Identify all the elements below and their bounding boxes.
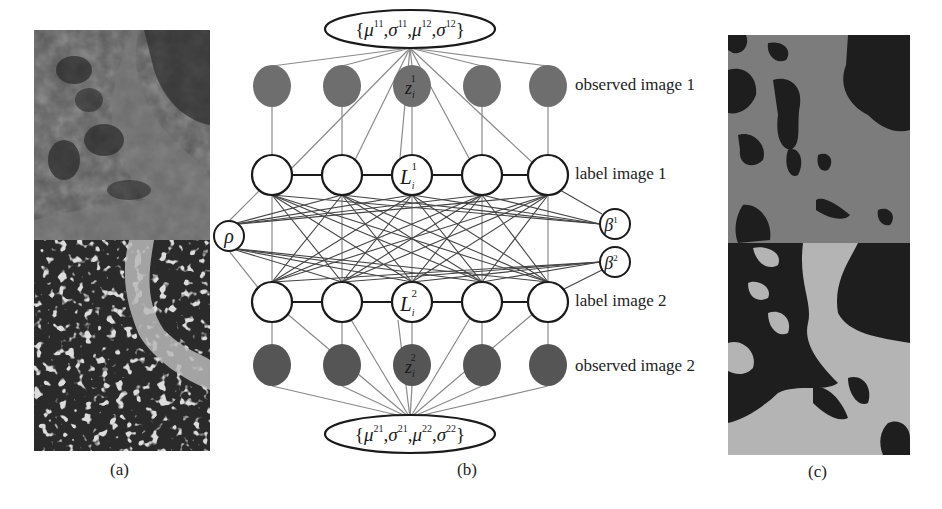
label-node [528,282,568,322]
rho-node: ρ [214,221,244,251]
observed-node [529,65,567,107]
beta1-node: β1 [600,209,630,239]
row-label-observed-2: observed image 2 [575,356,695,376]
caption-b: (b) [457,460,477,480]
label-node [462,155,502,195]
label-node [462,282,502,322]
panel-c [728,35,910,455]
row-label-label-2: label image 2 [575,291,667,311]
label-images [728,35,910,455]
bottom-params-node: {μ21,σ21,μ22,σ22} [325,415,495,453]
svg-text:ρ: ρ [223,225,234,248]
label-node [322,282,362,322]
top-params-node: {μ11,σ11,μ12,σ12} [325,10,495,48]
caption-c: (c) [808,462,827,482]
observed-node [463,344,501,386]
label-node [252,155,292,195]
label-node [252,282,292,322]
label-image-1 [728,35,910,243]
observed-node [253,65,291,107]
label-image-2 [728,243,910,455]
observed-node [463,65,501,107]
row-label-label-1: label image 1 [575,164,667,184]
beta2-node: β2 [600,247,630,277]
observed-node [323,344,361,386]
observed-node [529,344,567,386]
observed-node [323,65,361,107]
label-node [528,155,568,195]
row-label-observed-1: observed image 1 [575,75,695,95]
label-node [322,155,362,195]
observed-node [253,344,291,386]
